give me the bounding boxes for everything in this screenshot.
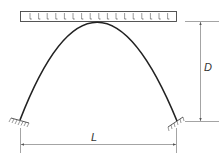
distributed-load [21, 12, 177, 22]
depth-dimension [185, 22, 219, 122]
left-fixed-support [9, 118, 29, 127]
span-dimension [21, 128, 177, 153]
arch-diagram [0, 0, 221, 161]
arch-curve [20, 22, 177, 121]
span-label: L [91, 131, 97, 143]
depth-label: D [204, 61, 212, 73]
